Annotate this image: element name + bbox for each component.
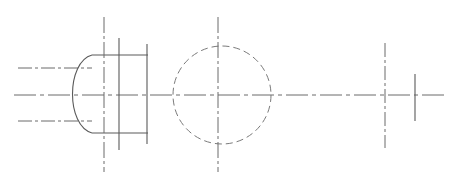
drawing-svg [0, 0, 467, 189]
technical-drawing-canvas [0, 0, 467, 189]
